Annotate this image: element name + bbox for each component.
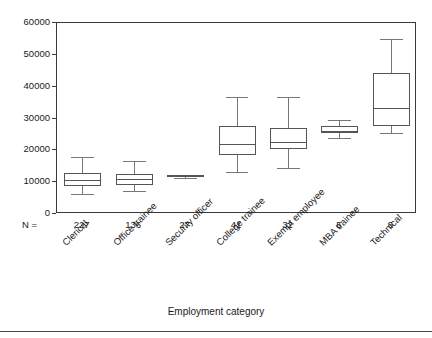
x-category-label: Technical <box>368 212 404 248</box>
n-equals-label: N = <box>22 219 37 230</box>
y-tick-label: 30000 <box>24 113 50 123</box>
y-tick-label: 40000 <box>24 81 50 91</box>
y-tick-label: 10000 <box>24 176 50 186</box>
y-tick-label: 50000 <box>24 49 50 59</box>
box-iqr <box>373 73 410 126</box>
median-line <box>373 108 410 109</box>
boxplot-figure: 0100002000030000400005000060000 N = 2271… <box>0 0 432 338</box>
y-tick-label: 60000 <box>24 17 50 27</box>
whisker-cap-upper <box>380 39 403 40</box>
plot-area <box>56 22 416 213</box>
x-axis-title: Employment category <box>0 306 432 317</box>
whisker-lower <box>391 126 392 133</box>
y-tick-label: 0 <box>45 208 50 218</box>
y-tick-label: 20000 <box>24 145 50 155</box>
y-tick-mark <box>52 213 56 214</box>
y-axis: 0100002000030000400005000060000 <box>0 0 50 338</box>
bottom-divider <box>0 331 432 332</box>
whisker-upper <box>391 39 392 72</box>
whisker-cap-lower <box>380 133 403 134</box>
box-plot-group <box>57 23 417 214</box>
